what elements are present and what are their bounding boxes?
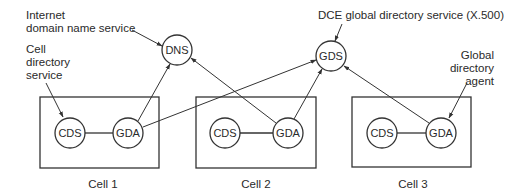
gda-annotation-line2: directory: [448, 62, 494, 75]
arrow-cell1-gda-to-gds: [143, 60, 316, 127]
cell-3-cds-label: CDS: [370, 127, 393, 139]
cell-3-gda-node: GDA: [426, 118, 456, 148]
pointer-dce-gds: [335, 24, 342, 41]
dns-label: DNS: [165, 44, 188, 56]
gds-node: GDS: [316, 41, 346, 71]
dns-node: DNS: [162, 35, 192, 65]
gda-annotation-line1: Global: [448, 49, 494, 62]
cell-1-cds-label: CDS: [58, 127, 81, 139]
cell-2-gda-label: GDA: [276, 127, 301, 139]
cell-3-gda-label: GDA: [429, 127, 454, 139]
internet-dns-line2: domain name service: [26, 22, 135, 35]
dce-gds-text: DCE global directory service (X.500): [318, 9, 504, 22]
pointer-cell-directory: [46, 83, 63, 117]
cell-directory-annotation: Cell directory service: [26, 43, 70, 82]
cell-2-label: Cell 2: [241, 178, 270, 190]
cell-directory-line2: directory: [26, 56, 70, 69]
cell-2-gda-node: GDA: [273, 118, 303, 148]
internet-dns-annotation: Internet domain name service: [26, 9, 135, 35]
cell-directory-line3: service: [26, 69, 70, 82]
arrow-cell2-gda-to-dns: [191, 58, 276, 123]
dce-gds-annotation: DCE global directory service (X.500): [318, 9, 504, 22]
cell-1-cds-node: CDS: [55, 118, 85, 148]
cell-directory-line1: Cell: [26, 43, 70, 56]
cell-1-label: Cell 1: [88, 178, 117, 190]
gds-label: GDS: [319, 50, 343, 62]
pointer-internet-dns: [132, 30, 162, 46]
cell-2-cds-node: CDS: [210, 118, 240, 148]
internet-dns-line1: Internet: [26, 9, 135, 22]
pointer-global-directory-agent: [449, 83, 467, 118]
arrow-cell3-gda-to-gds: [344, 66, 429, 123]
arrow-cell1-gda-to-dns: [138, 64, 170, 121]
cell-1-gda-node: GDA: [113, 118, 143, 148]
cell-3-label: Cell 3: [398, 178, 427, 190]
cell-2-cds-label: CDS: [213, 127, 236, 139]
arrow-cell2-gda-to-gds: [294, 69, 322, 119]
cell-3-cds-node: CDS: [367, 118, 397, 148]
cell-1-gda-label: GDA: [116, 127, 141, 139]
global-directory-agent-annotation: Global directory agent: [448, 49, 494, 88]
gda-annotation-line3: agent: [448, 75, 494, 88]
